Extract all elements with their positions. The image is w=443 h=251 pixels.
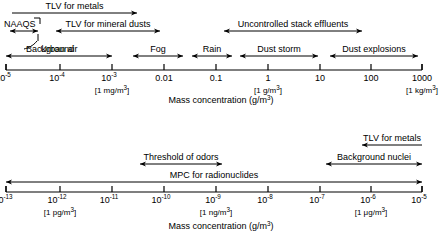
range-dust-storm: Dust storm xyxy=(240,44,318,59)
tick-label: 1000 xyxy=(412,73,432,83)
range-label: Rain xyxy=(203,44,222,54)
axis-caption: Mass concentration (g/m3) xyxy=(168,220,273,232)
range-rain: Rain xyxy=(192,44,232,59)
tick-label: 10 xyxy=(315,73,325,83)
range-label: TLV for metals xyxy=(363,133,421,143)
range-dust-explosions: Dust explosions xyxy=(330,44,418,59)
tick-label: 0.1 xyxy=(210,73,223,83)
range-tlv-for-mineral-dusts: TLV for mineral dusts xyxy=(56,19,160,34)
tick-label: 10-3 xyxy=(101,71,117,83)
tick-label: 10-4 xyxy=(49,71,65,83)
tick-label: 10-13 xyxy=(0,193,13,205)
tick-label: 10-8 xyxy=(257,193,273,205)
range-fog: Fog xyxy=(133,44,183,59)
range-label: Uncontrolled stack effluents xyxy=(238,19,349,29)
top-panel: TLV for metalsNAAQSTLV for mineral dusts… xyxy=(0,0,443,125)
axis-caption: Mass concentration (g/m3) xyxy=(168,94,273,106)
range-label: Dust explosions xyxy=(342,44,406,54)
tick-label: 10-11 xyxy=(100,193,119,205)
range-label: Dust storm xyxy=(257,44,301,54)
range-mpc-for-radionuclides: MPC for radionuclides xyxy=(6,170,422,185)
range-label: Urban air xyxy=(40,44,77,54)
tick-label: 10-10 xyxy=(151,193,171,205)
range-label: NAAQS xyxy=(4,19,36,29)
tick-label: 10-5 xyxy=(0,71,11,83)
unit-note: [1 kg/m3] xyxy=(406,84,438,96)
unit-note: [1 pg/m3] xyxy=(44,206,76,218)
range-tlv-for-metals: TLV for metals xyxy=(12,1,137,16)
tick-label: 1 xyxy=(265,73,270,83)
unit-note: [1 μg/m3] xyxy=(355,206,388,218)
tick-label: 100 xyxy=(363,73,378,83)
axis xyxy=(6,64,422,70)
unit-note: [1 ng/m3] xyxy=(200,206,232,218)
bottom-panel-svg: TLV for metalsThreshold of odorsBackgrou… xyxy=(0,125,443,251)
range-label: TLV for metals xyxy=(46,1,104,11)
axis xyxy=(6,186,422,192)
tick-label: 0.01 xyxy=(155,73,173,83)
tick-label: 10-7 xyxy=(309,193,325,205)
bottom-panel: TLV for metalsThreshold of odorsBackgrou… xyxy=(0,125,443,251)
unit-note: [1 mg/m3] xyxy=(95,84,130,96)
tick-label: 10-6 xyxy=(360,193,376,205)
range-label: Fog xyxy=(150,44,166,54)
tick-label: 10-9 xyxy=(205,193,221,205)
range-label: MPC for radionuclides xyxy=(170,170,259,180)
range-label: Threshold of odors xyxy=(143,152,219,162)
range-label: Background nuclei xyxy=(337,152,411,162)
range-tlv-for-metals: TLV for metals xyxy=(362,133,422,148)
tick-label: 10-12 xyxy=(47,193,67,205)
range-uncontrolled-stack-effluents: Uncontrolled stack effluents xyxy=(224,19,362,34)
range-naaqs: NAAQS xyxy=(4,18,40,34)
top-panel-svg: TLV for metalsNAAQSTLV for mineral dusts… xyxy=(0,0,443,125)
tick-label: 10-5 xyxy=(411,193,427,205)
range-threshold-of-odors: Threshold of odors xyxy=(140,152,222,167)
range-label: TLV for mineral dusts xyxy=(66,19,151,29)
range-urban-air: Urban air xyxy=(6,44,112,59)
range-background-nuclei: Background nuclei xyxy=(326,152,422,167)
